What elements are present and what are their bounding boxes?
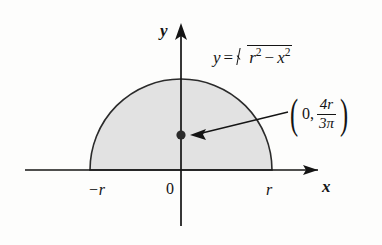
coordinate-y-fraction: 4r 3π [317, 97, 336, 131]
radical-sign: r2−x2 [236, 44, 292, 66]
fraction-numerator: 4r [318, 97, 335, 114]
close-paren: ) [340, 99, 348, 129]
radicand-second-exponent: 2 [285, 46, 291, 59]
open-paren: ( [290, 99, 298, 129]
fraction-denominator: 3π [317, 115, 336, 132]
tick-label-r: r [266, 182, 272, 198]
curve-equation-label: y=r2−x2 [213, 44, 292, 66]
radicand-minus: − [265, 48, 275, 67]
radicand: r2−x2 [247, 45, 292, 66]
radicand-first-exponent: 2 [256, 46, 262, 59]
y-axis-label: y [160, 22, 168, 39]
radicand-first-base: r [249, 48, 256, 67]
equation-equals: = [224, 48, 234, 67]
x-axis-label: x [322, 178, 331, 195]
coordinate-body: 0, 4r 3π [301, 97, 337, 131]
coordinate-x-value: 0, [302, 106, 314, 122]
centroid-coordinate-label: ( 0, 4r 3π ) [287, 97, 351, 131]
semicircle-centroid-figure: y x −r 0 r y=r2−x2 ( 0, 4r 3π ) [0, 0, 382, 245]
tick-label-origin: 0 [166, 181, 174, 197]
equation-lhs: y [213, 48, 221, 67]
radicand-second-base: x [277, 48, 285, 67]
tick-label-minus-r: −r [88, 182, 105, 198]
centroid-dot [176, 130, 185, 139]
